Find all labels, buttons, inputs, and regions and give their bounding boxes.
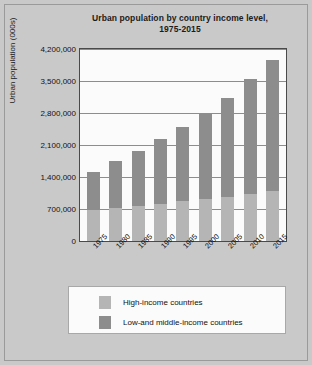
bar-series-group	[80, 49, 286, 241]
bar-segment-low-middle-income	[176, 127, 189, 201]
legend-item-high-income: High-income countries	[99, 293, 285, 311]
bar-segment-high-income	[154, 204, 167, 241]
y-axis-tick-label: 2,800,000	[40, 109, 76, 118]
legend-label-low-middle-income: Low-and middle-income countries	[123, 318, 243, 327]
bar-segment-low-middle-income	[266, 60, 279, 191]
chart-page: Urban population by country income level…	[0, 0, 312, 365]
bar-segment-low-middle-income	[132, 151, 145, 206]
bar-segment-low-middle-income	[154, 139, 167, 204]
bar-1995	[176, 127, 189, 241]
chart-title-line-2: 1975-2015	[60, 24, 300, 35]
bar-segment-high-income	[266, 191, 279, 241]
bar-segment-low-middle-income	[109, 161, 122, 208]
legend-swatch-high-income-icon	[99, 296, 111, 309]
chart-title-line-1: Urban population by country income level…	[60, 13, 300, 24]
y-axis-tick-label: 700,000	[47, 205, 76, 214]
y-axis-tick-label: 1,400,000	[40, 173, 76, 182]
y-axis-tick-label: 2,100,000	[40, 141, 76, 150]
bar-2010	[244, 79, 257, 241]
bar-segment-low-middle-income	[221, 98, 234, 196]
bar-segment-high-income	[221, 197, 234, 241]
bar-segment-high-income	[244, 194, 257, 241]
chart-legend: High-income countries Low-and middle-inc…	[68, 286, 286, 334]
bar-2000	[199, 113, 212, 241]
y-axis-tick-label: 4,200,000	[40, 45, 76, 54]
bar-segment-low-middle-income	[244, 79, 257, 194]
bar-segment-high-income	[176, 201, 189, 241]
chart-title: Urban population by country income level…	[60, 13, 300, 35]
y-axis-tick-labels: 0700,0001,400,0002,100,0002,800,0003,500…	[14, 48, 76, 242]
bar-1980	[109, 161, 122, 241]
bar-segment-low-middle-income	[199, 113, 212, 199]
legend-item-low-middle-income: Low-and middle-income countries	[99, 313, 285, 331]
y-axis-tick-label: 0	[72, 237, 76, 246]
bar-2005	[221, 98, 234, 241]
bar-2015	[266, 60, 279, 241]
bar-1975	[87, 172, 100, 241]
bar-segment-high-income	[199, 199, 212, 241]
plot-area	[79, 48, 287, 242]
bar-1985	[132, 151, 145, 242]
legend-swatch-low-middle-income-icon	[99, 316, 111, 329]
bar-segment-low-middle-income	[87, 172, 100, 209]
y-axis-tick-label: 3,500,000	[40, 77, 76, 86]
x-axis-tick-labels: 197519801985199019952000200520102015	[79, 244, 287, 278]
bar-1990	[154, 139, 167, 241]
legend-label-high-income: High-income countries	[123, 298, 203, 307]
